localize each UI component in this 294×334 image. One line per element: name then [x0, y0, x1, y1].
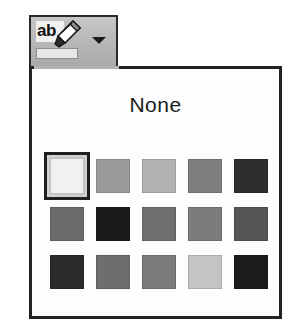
color-swatch[interactable] — [182, 152, 228, 200]
color-swatch[interactable] — [228, 248, 274, 296]
no-color-option[interactable]: None — [32, 93, 279, 117]
color-swatch[interactable] — [44, 248, 90, 296]
color-swatch-fill — [234, 159, 268, 193]
color-swatch[interactable] — [228, 200, 274, 248]
highlight-color-picker: ab None — [0, 0, 294, 334]
color-swatch-fill — [96, 255, 130, 289]
text-highlight-color-button[interactable]: ab — [29, 15, 118, 68]
color-swatch[interactable] — [136, 152, 182, 200]
color-swatch-fill — [142, 207, 176, 241]
color-swatch-fill — [142, 255, 176, 289]
color-swatch-fill — [188, 207, 222, 241]
color-swatch-fill — [142, 159, 176, 193]
current-color-indicator — [36, 48, 78, 59]
color-swatch-fill — [50, 255, 84, 289]
color-swatch-fill — [96, 207, 130, 241]
color-swatch[interactable] — [182, 200, 228, 248]
color-swatch[interactable] — [136, 248, 182, 296]
color-swatch[interactable] — [228, 152, 274, 200]
color-swatch-fill — [188, 159, 222, 193]
color-swatch-fill — [96, 159, 130, 193]
color-swatch-grid — [44, 152, 273, 296]
color-swatch[interactable] — [90, 248, 136, 296]
color-swatch[interactable] — [90, 152, 136, 200]
color-swatch-fill — [234, 255, 268, 289]
color-swatch[interactable] — [44, 200, 90, 248]
panel-button-seam — [34, 66, 119, 69]
color-swatch-fill — [188, 255, 222, 289]
color-swatch-selected[interactable] — [44, 152, 90, 200]
chevron-down-icon[interactable] — [92, 37, 106, 44]
color-swatch-fill — [49, 157, 85, 195]
color-swatch[interactable] — [136, 200, 182, 248]
highlighter-pen-icon: ab — [36, 21, 80, 65]
color-swatch[interactable] — [90, 200, 136, 248]
color-swatch-fill — [234, 207, 268, 241]
color-swatch-fill — [50, 207, 84, 241]
color-dropdown-panel: None — [29, 66, 282, 319]
toolbar-button-face: ab — [31, 17, 116, 68]
color-swatch[interactable] — [182, 248, 228, 296]
